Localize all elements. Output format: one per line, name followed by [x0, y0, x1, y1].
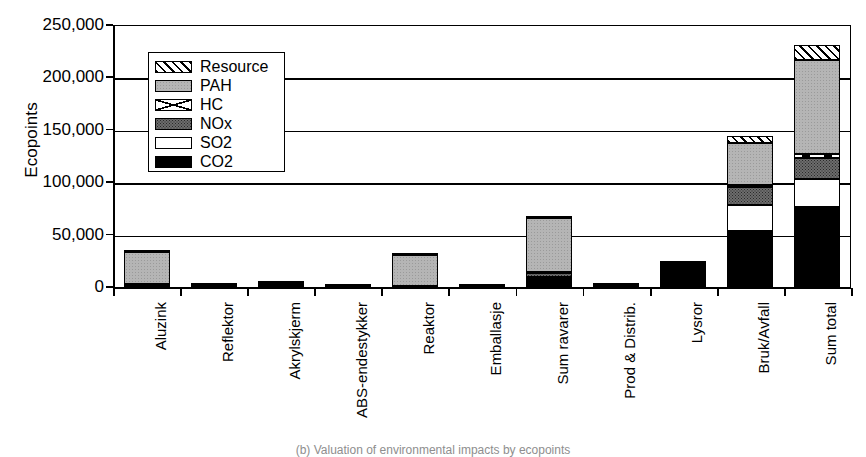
legend-label: CO2	[200, 154, 233, 170]
legend-swatch-resource	[155, 61, 192, 73]
x-tick-mark	[247, 288, 249, 296]
bar-segment-pah	[727, 143, 773, 185]
bar-segment-nox	[727, 187, 773, 205]
y-tick-mark	[106, 24, 113, 26]
bar-lysror	[660, 25, 706, 287]
bar-segment-so2	[794, 179, 840, 207]
legend-label: PAH	[200, 78, 232, 94]
bar-abs-endestykker	[325, 25, 371, 287]
legend-label: Resource	[200, 59, 268, 75]
y-tick-mark	[106, 76, 113, 78]
x-tick-label: Reaktor	[421, 302, 436, 355]
x-tick-mark	[113, 288, 115, 296]
legend-swatch-nox	[155, 118, 192, 130]
bar-segment-co2	[526, 279, 572, 287]
x-tick-label: Aluzink	[153, 302, 168, 350]
legend-swatch-co2	[155, 156, 192, 168]
legend-label: SO2	[200, 135, 232, 151]
legend-item: Resource	[155, 57, 284, 76]
bar-segment-resource	[459, 284, 505, 286]
figure-caption: (b) Valuation of environmental impacts b…	[0, 443, 866, 457]
bar-segment-resource	[526, 216, 572, 218]
y-tick-label: 250,000	[0, 16, 104, 33]
bar-bruk-avfall	[727, 25, 773, 287]
bar-segment-resource	[325, 284, 371, 286]
x-tick-label: Reflektor	[220, 302, 235, 362]
bar-segment-co2	[258, 283, 304, 287]
x-tick-mark	[717, 288, 719, 296]
bar-sum-ravarer	[526, 25, 572, 287]
bar-emballasje	[459, 25, 505, 287]
x-tick-label: Emballasje	[488, 302, 503, 375]
x-tick-label: Bruk/Avfall	[756, 302, 771, 373]
x-tick-mark	[516, 288, 518, 296]
bar-segment-resource	[124, 250, 170, 252]
legend: ResourcePAHHCNOxSO2CO2	[148, 52, 285, 172]
x-tick-mark	[180, 288, 182, 296]
bar-segment-co2	[727, 231, 773, 287]
bar-segment-co2	[191, 285, 237, 287]
x-tick-label: Lysror	[689, 302, 704, 343]
bar-sum-total	[794, 25, 840, 287]
bar-segment-resource	[727, 136, 773, 143]
legend-label: HC	[200, 97, 223, 113]
y-axis-title: Ecopoints	[22, 30, 42, 250]
y-tick-mark	[106, 129, 113, 131]
x-tick-mark	[381, 288, 383, 296]
bar-segment-pah	[124, 252, 170, 284]
x-tick-mark	[784, 288, 786, 296]
y-tick-label: 0	[0, 278, 104, 295]
legend-item: PAH	[155, 76, 284, 95]
legend-swatch-hc	[155, 99, 192, 111]
y-tick-mark	[106, 286, 113, 288]
y-tick-label: 50,000	[0, 226, 104, 243]
legend-item: SO2	[155, 133, 284, 152]
x-tick-label: ABS-endestykker	[354, 302, 369, 418]
x-tick-label: Sum ravarer	[555, 302, 570, 385]
bar-segment-resource	[258, 281, 304, 283]
x-tick-label: Prod & Distrib.	[622, 302, 637, 399]
legend-item: HC	[155, 95, 284, 114]
bar-segment-hc	[794, 154, 840, 158]
bar-segment-pah	[526, 218, 572, 272]
bar-segment-co2	[593, 285, 639, 287]
bar-segment-pah	[794, 60, 840, 154]
bar-segment-pah	[392, 255, 438, 286]
bar-segment-nox	[526, 273, 572, 277]
bar-segment-resource	[660, 261, 706, 263]
bar-prod-distrib	[593, 25, 639, 287]
y-tick-label: 150,000	[0, 121, 104, 138]
legend-swatch-pah	[155, 80, 192, 92]
x-tick-mark	[851, 288, 853, 296]
bar-segment-nox	[794, 158, 840, 179]
y-tick-label: 100,000	[0, 173, 104, 190]
bar-segment-resource	[392, 253, 438, 255]
x-tick-mark	[314, 288, 316, 296]
bar-segment-co2	[794, 207, 840, 287]
legend-label: NOx	[200, 116, 232, 132]
legend-item: NOx	[155, 114, 284, 133]
x-tick-mark	[583, 288, 585, 296]
bar-segment-resource	[593, 283, 639, 285]
x-tick-mark	[448, 288, 450, 296]
bar-segment-resource	[794, 45, 840, 60]
bar-segment-resource	[191, 283, 237, 285]
bar-reaktor	[392, 25, 438, 287]
bar-segment-hc	[727, 185, 773, 188]
x-tick-mark	[650, 288, 652, 296]
y-tick-label: 200,000	[0, 68, 104, 85]
x-tick-label: Sum total	[823, 302, 838, 365]
y-tick-mark	[106, 181, 113, 183]
bar-segment-so2	[727, 205, 773, 231]
x-axis-line	[113, 287, 851, 289]
bar-segment-co2	[124, 285, 170, 287]
bar-segment-co2	[660, 264, 706, 287]
x-tick-label: Akrylskjerm	[287, 302, 302, 380]
y-tick-mark	[106, 234, 113, 236]
legend-item: CO2	[155, 152, 284, 171]
legend-swatch-so2	[155, 137, 192, 149]
